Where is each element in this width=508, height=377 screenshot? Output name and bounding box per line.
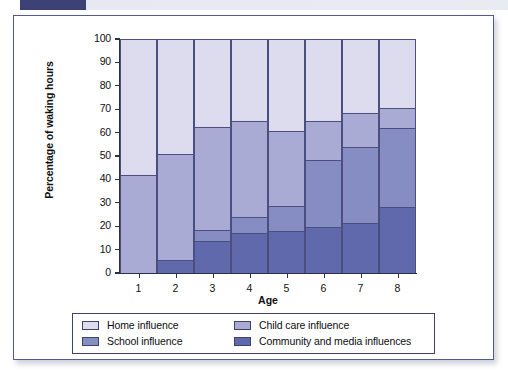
x-axis-tick-label: 3 [194,282,231,294]
legend-label: Community and media influences [259,335,411,347]
legend-label: Child care influence [259,319,349,331]
bar-segment[interactable] [268,206,305,231]
x-axis-tick-mark [361,273,362,278]
bar-segment[interactable] [194,39,231,127]
header-tab-marker [20,0,86,9]
x-axis-tick-label: 5 [268,282,305,294]
legend-item[interactable]: Child care influence [234,319,349,331]
bar-segment[interactable] [305,160,342,228]
bar-segment[interactable] [379,108,416,128]
x-axis-tick-mark [324,273,325,278]
y-axis-tick-label: 50 [77,149,111,161]
bar-column[interactable]: 5 [268,39,305,273]
bar-segment[interactable] [157,39,194,154]
y-axis-tick-label: 10 [77,243,111,255]
x-axis-tick-mark [213,273,214,278]
legend-item[interactable]: Community and media influences [234,335,411,347]
bar-segment[interactable] [120,175,157,273]
legend-swatch [82,321,99,330]
legend-row: Home influenceChild care influence [82,319,427,331]
bar-segment[interactable] [305,227,342,273]
plot-area: 0102030405060708090100 12345678 [120,39,416,273]
x-axis-tick-label: 8 [379,282,416,294]
legend-row: School influenceCommunity and media infl… [82,335,427,347]
bar-segment[interactable] [342,39,379,113]
bar-segment[interactable] [342,223,379,273]
bar-segment[interactable] [268,131,305,206]
figure-card: Percentage of waking hours 0102030405060… [13,15,494,360]
bar-segment[interactable] [157,260,194,273]
y-axis-title: Percentage of waking hours [43,35,55,225]
x-axis-tick-label: 6 [305,282,342,294]
x-axis-title: Age [120,294,416,306]
y-axis-tick-label: 40 [77,172,111,184]
x-axis-tick-mark [250,273,251,278]
bar-segment[interactable] [194,230,231,242]
bar-segment[interactable] [231,121,268,217]
bar-segment[interactable] [231,233,268,273]
x-axis-tick-mark [287,273,288,278]
bar-segment[interactable] [120,39,157,175]
chart-legend: Home influenceChild care influenceSchool… [72,313,435,354]
y-axis-tick-label: 60 [77,126,111,138]
legend-swatch [234,337,251,346]
bars-container: 12345678 [120,39,416,273]
y-axis-tick-label: 30 [77,196,111,208]
bar-column[interactable]: 2 [157,39,194,273]
bar-segment[interactable] [379,207,416,273]
bar-segment[interactable] [268,39,305,131]
bar-segment[interactable] [231,217,268,233]
y-axis-tick-label: 90 [77,55,111,67]
x-axis-tick-mark [398,273,399,278]
x-axis-tick-label: 4 [231,282,268,294]
x-axis-tick-label: 2 [157,282,194,294]
bar-segment[interactable] [379,128,416,208]
bar-segment[interactable] [342,113,379,147]
bar-segment[interactable] [379,39,416,108]
bar-column[interactable]: 1 [120,39,157,273]
bar-column[interactable]: 4 [231,39,268,273]
legend-swatch [234,321,251,330]
x-axis-tick-mark [176,273,177,278]
y-axis-tick-label: 0 [77,266,111,278]
bar-column[interactable]: 8 [379,39,416,273]
legend-label: Home influence [107,319,179,331]
bar-column[interactable]: 7 [342,39,379,273]
bar-segment[interactable] [268,231,305,273]
y-axis-tick-label: 80 [77,79,111,91]
x-axis-tick-label: 1 [120,282,157,294]
legend-label: School influence [107,335,182,347]
y-axis-tick-label: 20 [77,219,111,231]
bar-segment[interactable] [231,39,268,121]
legend-swatch [82,337,99,346]
legend-item[interactable]: School influence [82,335,234,347]
bar-segment[interactable] [305,121,342,160]
x-axis-tick-label: 7 [342,282,379,294]
x-axis-tick-mark [139,273,140,278]
legend-item[interactable]: Home influence [82,319,234,331]
bar-column[interactable]: 3 [194,39,231,273]
top-decorative-strip [0,0,508,10]
bar-column[interactable]: 6 [305,39,342,273]
bar-segment[interactable] [194,127,231,230]
bar-segment[interactable] [194,241,231,273]
chart-region: Percentage of waking hours 0102030405060… [14,16,495,306]
bar-segment[interactable] [157,154,194,260]
bar-segment[interactable] [305,39,342,121]
bar-segment[interactable] [342,147,379,223]
y-axis-tick-label: 70 [77,102,111,114]
y-axis-tick-label: 100 [77,32,111,44]
